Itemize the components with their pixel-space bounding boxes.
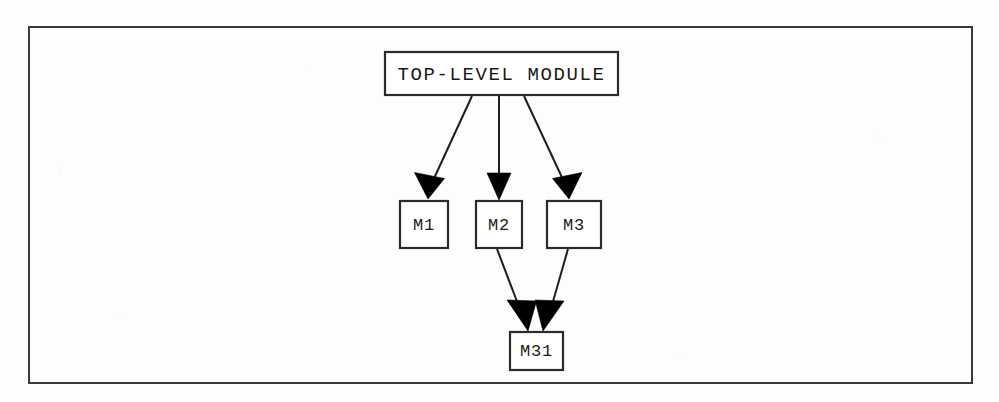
edge-line-top-m3: [524, 96, 566, 186]
edge-m2-to-m31: [497, 249, 537, 331]
arrowhead-m2-m31: [507, 300, 537, 331]
arrowhead-top-m2: [487, 173, 511, 200]
edge-top-to-m3: [524, 96, 582, 199]
node-label-m31: M31: [520, 342, 553, 361]
edge-top-to-m1: [415, 96, 473, 199]
edge-line-top-m1: [431, 96, 473, 186]
node-label-top: TOP-LEVEL MODULE: [397, 64, 605, 86]
arrowhead-top-m3: [553, 173, 583, 200]
node-label-m3: M3: [563, 216, 585, 235]
edge-m3-to-m31: [535, 249, 568, 331]
edge-top-to-m2: [487, 96, 511, 200]
node-label-m1: M1: [413, 216, 435, 235]
node-m3[interactable]: M3: [547, 201, 601, 248]
node-m1[interactable]: M1: [400, 201, 448, 248]
arrowhead-top-m1: [415, 173, 445, 200]
node-m31[interactable]: M31: [510, 332, 563, 370]
module-hierarchy-diagram: TOP-LEVEL MODULE M1 M2 M3 M31: [0, 0, 999, 402]
figure-canvas: TOP-LEVEL MODULE M1 M2 M3 M31: [0, 0, 999, 402]
node-layer: TOP-LEVEL MODULE M1 M2 M3 M31: [385, 52, 618, 370]
node-m2[interactable]: M2: [476, 201, 522, 248]
node-top-level-module[interactable]: TOP-LEVEL MODULE: [385, 52, 618, 95]
arrowhead-m3-m31: [535, 300, 564, 331]
node-label-m2: M2: [488, 216, 510, 235]
